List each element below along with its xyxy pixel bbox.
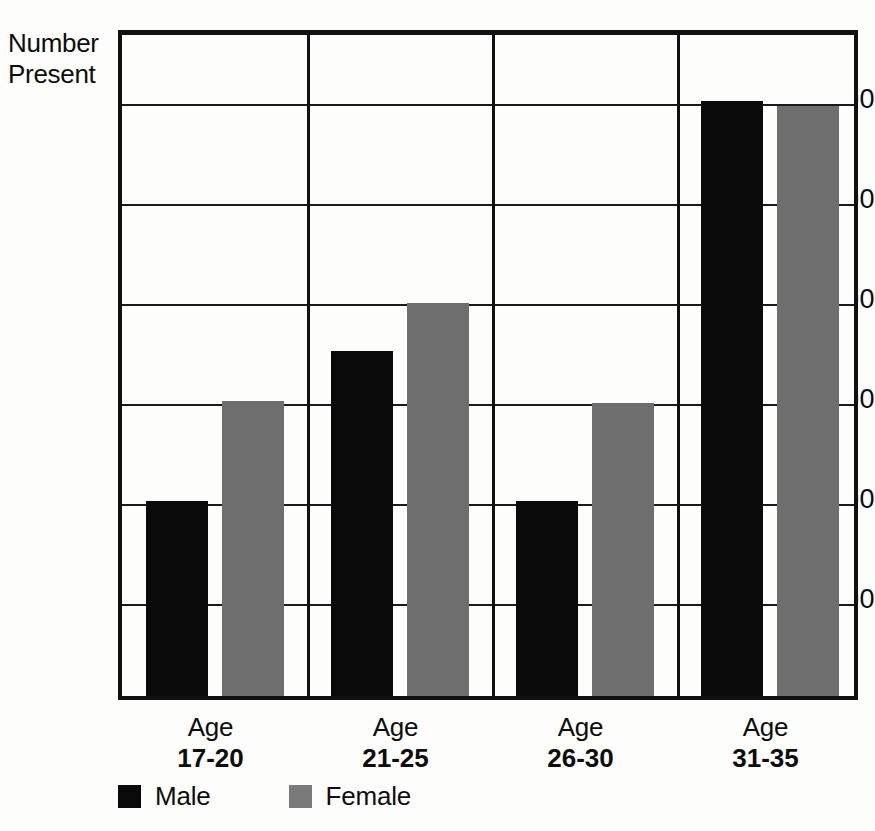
x-label-line-1: Age [673, 712, 858, 743]
x-label-line-2: 31-35 [673, 743, 858, 774]
legend-item-male[interactable]: Male [118, 783, 211, 809]
legend-item-female[interactable]: Female [289, 783, 412, 809]
x-label-group-4: Age31-35 [673, 712, 858, 774]
y-axis-title: Number Present [8, 28, 112, 90]
x-label-group-1: Age17-20 [118, 712, 303, 774]
bar-female-age-21-25 [407, 303, 469, 696]
x-label-line-2: 17-20 [118, 743, 303, 774]
x-label-line-2: 21-25 [303, 743, 488, 774]
male-swatch-icon [118, 785, 141, 808]
bar-female-age-31-35 [777, 106, 839, 696]
bar-male-age-31-35 [701, 101, 763, 696]
chart-legend: MaleFemale [118, 783, 489, 809]
group-divider-1 [307, 35, 310, 696]
group-divider-3 [677, 35, 680, 696]
legend-label-male: Male [155, 783, 211, 809]
y-axis-title-line-1: Number [8, 28, 112, 59]
bar-female-age-26-30 [592, 403, 654, 696]
bar-chart: Number Present 100200300400500600 Age17-… [0, 0, 875, 831]
x-label-group-2: Age21-25 [303, 712, 488, 774]
bar-male-age-17-20 [146, 501, 208, 696]
x-label-line-2: 26-30 [488, 743, 673, 774]
bar-female-age-17-20 [222, 401, 284, 696]
legend-label-female: Female [326, 783, 412, 809]
x-label-line-1: Age [488, 712, 673, 743]
x-label-group-3: Age26-30 [488, 712, 673, 774]
bar-male-age-26-30 [516, 501, 578, 696]
female-swatch-icon [289, 785, 312, 808]
group-divider-2 [492, 35, 495, 696]
y-axis-title-line-2: Present [8, 59, 112, 90]
bar-male-age-21-25 [331, 351, 393, 696]
x-label-line-1: Age [118, 712, 303, 743]
plot-area [118, 30, 858, 700]
x-label-line-1: Age [303, 712, 488, 743]
